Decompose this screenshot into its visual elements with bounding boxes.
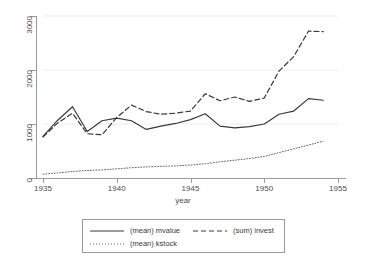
- plot-area: [43, 16, 338, 178]
- y-tick-label: 3000: [25, 16, 35, 34]
- y-tick-label-wrap: 1000: [0, 119, 30, 129]
- legend-label-kstock: (mean) kstock: [130, 239, 177, 248]
- series-line-2: [43, 141, 323, 174]
- y-tick-label-wrap: 0: [0, 173, 30, 183]
- dashed-line-key-icon: [192, 226, 228, 236]
- y-tick-label: 1000: [25, 124, 35, 142]
- y-tick-label-wrap: 2000: [0, 65, 30, 75]
- chart-legend: (mean) mvalue (sum) invest (mean) kstock: [82, 219, 285, 253]
- x-tick: [264, 179, 265, 183]
- dotted-line-key-icon: [89, 239, 125, 249]
- x-tick: [338, 179, 339, 183]
- x-tick: [117, 179, 118, 183]
- x-tick-label: 1945: [182, 184, 200, 193]
- y-tick-label: 0: [25, 178, 35, 182]
- x-tick: [43, 179, 44, 183]
- legend-row-1: (mean) mvalue (sum) invest: [89, 224, 278, 237]
- x-tick-label: 1955: [329, 184, 347, 193]
- x-axis-title: year: [0, 196, 366, 205]
- x-tick-label: 1950: [255, 184, 273, 193]
- y-tick-label: 2000: [25, 70, 35, 88]
- legend-label-invest: (sum) invest: [233, 226, 274, 235]
- legend-entry-mvalue[interactable]: (mean) mvalue: [89, 226, 180, 236]
- y-axis-line: [36, 16, 37, 179]
- gridlines: [43, 16, 338, 124]
- x-tick-label: 1940: [108, 184, 126, 193]
- series-lines: [43, 31, 323, 174]
- plot-canvas: [43, 16, 338, 178]
- y-tick-label-wrap: 3000: [0, 11, 30, 21]
- legend-entry-kstock[interactable]: (mean) kstock: [89, 239, 177, 249]
- legend-row-2: (mean) kstock: [89, 237, 278, 250]
- solid-line-key-icon: [89, 226, 125, 236]
- legend-label-mvalue: (mean) mvalue: [130, 226, 180, 235]
- x-tick: [191, 179, 192, 183]
- chart-figure: 0100020003000 19351940194519501955 year …: [0, 0, 366, 262]
- x-tick-label: 1935: [34, 184, 52, 193]
- legend-entry-invest[interactable]: (sum) invest: [192, 226, 274, 236]
